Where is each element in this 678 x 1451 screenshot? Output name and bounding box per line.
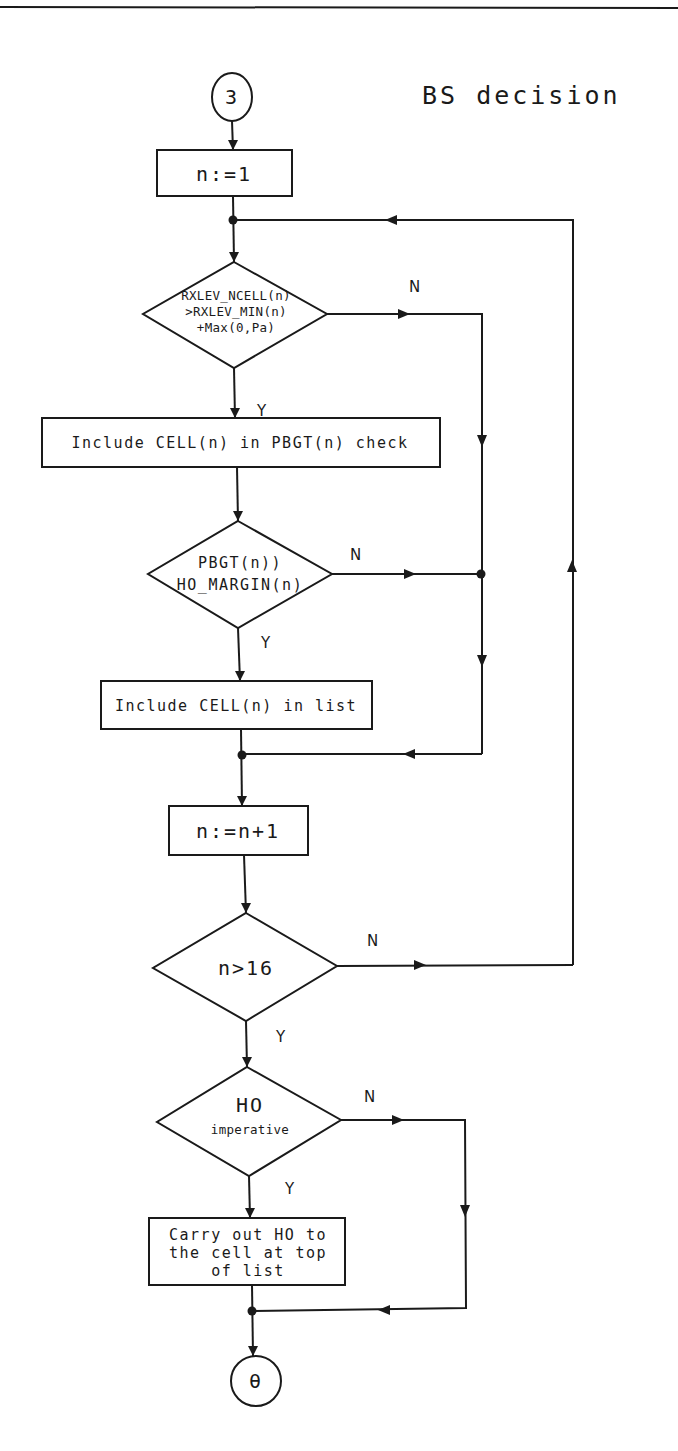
- process-init: n:=1: [157, 150, 292, 196]
- arrow-down-icon: [477, 655, 487, 667]
- decision-rxlev-line-1: RXLEV_NCELL(n): [181, 288, 291, 303]
- decision-ho-line-1: HO: [236, 1093, 264, 1117]
- junction-dot: [477, 570, 486, 579]
- arrow-down-icon: [230, 408, 240, 418]
- diagram-title: BS decision: [422, 81, 621, 110]
- process-include-list: Include CELL(n) in list: [101, 681, 372, 729]
- decision-pbgt-yes-label: Y: [260, 634, 271, 652]
- decision-ho-yes-label: Y: [284, 1180, 295, 1198]
- arrow-down-icon: [228, 140, 238, 150]
- arrow-down-icon: [235, 671, 245, 681]
- decision-count-yes-label: Y: [275, 1028, 286, 1046]
- count-no-line: [337, 965, 573, 966]
- arrow-down-icon: [248, 1346, 258, 1356]
- arrow-right-icon: [414, 960, 426, 970]
- decision-count-no-label: N: [367, 932, 378, 950]
- decision-ho: HO imperative: [157, 1067, 341, 1176]
- decision-pbgt-line-1: PBGT(n)): [198, 554, 282, 572]
- decision-pbgt-no-label: N: [350, 546, 361, 564]
- decision-rxlev-line-2: >RXLEV_MIN(n): [185, 304, 287, 319]
- entry-connector: 3: [212, 73, 252, 121]
- arrow-left-icon: [385, 215, 397, 225]
- arrow-down-icon: [241, 903, 251, 913]
- decision-rxlev-line-3: +Max(0,Pa): [197, 320, 275, 335]
- exit-connector-label: θ: [249, 1369, 263, 1393]
- flow-line: [252, 1285, 253, 1356]
- carry-out-line-2: the cell at top: [169, 1244, 327, 1262]
- decision-count-label: n>16: [218, 956, 274, 980]
- carry-out-line-1: Carry out HO to: [169, 1226, 327, 1244]
- process-carry-out-ho: Carry out HO to the cell at top of list: [149, 1218, 345, 1285]
- arrow-down-icon: [460, 1205, 470, 1217]
- decision-ho-line-2: imperative: [211, 1122, 289, 1137]
- process-include-pbgt-label: Include CELL(n) in PBGT(n) check: [72, 434, 409, 452]
- arrow-right-icon: [392, 1115, 404, 1125]
- arrow-down-icon: [237, 796, 247, 806]
- arrow-right-icon: [404, 569, 416, 579]
- arrow-down-icon: [229, 252, 239, 262]
- decision-rxlev-no-label: N: [409, 278, 420, 296]
- page-top-border: [0, 7, 678, 8]
- flowchart-canvas: BS decision 3 n:=1 RXLEV_NCELL(n) >RXLEV…: [0, 0, 678, 1451]
- arrow-down-icon: [245, 1208, 255, 1218]
- decision-count: n>16: [153, 913, 337, 1021]
- arrow-down-icon: [477, 435, 487, 447]
- process-include-list-label: Include CELL(n) in list: [115, 697, 357, 715]
- process-increment-label: n:=n+1: [196, 819, 280, 843]
- process-init-label: n:=1: [196, 162, 252, 186]
- arrow-left-icon: [403, 749, 415, 759]
- decision-pbgt-line-2: HO_MARGIN(n): [177, 576, 303, 594]
- arrow-left-icon: [378, 1305, 390, 1315]
- decision-pbgt: PBGT(n)) HO_MARGIN(n): [148, 521, 332, 628]
- arrow-right-icon: [398, 309, 410, 319]
- carry-out-line-3: of list: [211, 1262, 285, 1280]
- flow-line: [241, 729, 242, 806]
- arrow-down-icon: [242, 1057, 252, 1067]
- process-increment: n:=n+1: [169, 806, 308, 855]
- junction-dot: [238, 751, 247, 760]
- arrow-down-icon: [233, 511, 243, 521]
- junction-dot: [248, 1307, 257, 1316]
- decision-rxlev: RXLEV_NCELL(n) >RXLEV_MIN(n) +Max(0,Pa): [143, 262, 327, 368]
- process-include-pbgt: Include CELL(n) in PBGT(n) check: [42, 418, 440, 467]
- arrow-up-icon: [567, 560, 577, 572]
- exit-connector: θ: [231, 1356, 281, 1406]
- entry-connector-label: 3: [225, 85, 239, 109]
- decision-ho-no-label: N: [364, 1088, 375, 1106]
